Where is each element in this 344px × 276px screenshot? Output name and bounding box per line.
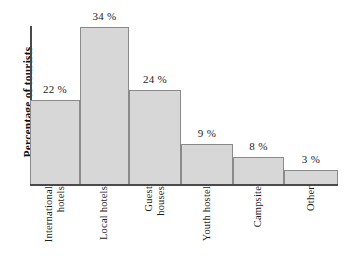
x-axis-label-line: houses (156, 186, 167, 216)
x-axis-label-line: Campsite (253, 186, 264, 227)
x-axis-label-line: International (44, 186, 55, 242)
bar-value-label: 24 % (129, 73, 181, 85)
bar-chart: Percentage of tourists 22 %34 %24 %9 %8 … (0, 0, 344, 276)
x-axis-category-labels: InternationalhotelsLocal hotelsGuesthous… (0, 186, 344, 276)
bar-value-label: 8 % (233, 140, 284, 152)
bar-value-label: 22 % (30, 83, 80, 95)
bar-value-label: 9 % (181, 127, 233, 139)
plot-area: 22 %34 %24 %9 %8 %3 % (0, 0, 344, 186)
x-axis-label-line: Local hotels (99, 186, 110, 240)
bar (284, 170, 338, 184)
bar (129, 90, 181, 184)
x-axis-label: Campsite (233, 186, 284, 274)
bar (80, 27, 129, 184)
x-axis-label: Internationalhotels (30, 186, 80, 274)
bar-value-label: 3 % (284, 153, 338, 165)
x-axis-label: Local hotels (80, 186, 129, 274)
x-axis-label: Other (284, 186, 338, 274)
bar (30, 100, 80, 184)
bar-value-label: 34 % (80, 10, 129, 22)
x-axis-label-line: hotels (56, 186, 67, 212)
bar (181, 144, 233, 184)
x-axis-label: Guesthouses (129, 186, 181, 274)
x-axis-label-line: Guest (144, 186, 155, 212)
x-axis-label-line: Youth hostel (202, 186, 213, 241)
bar (233, 157, 284, 184)
x-axis-label: Youth hostel (181, 186, 233, 274)
x-axis-label-line: Other (306, 186, 317, 211)
